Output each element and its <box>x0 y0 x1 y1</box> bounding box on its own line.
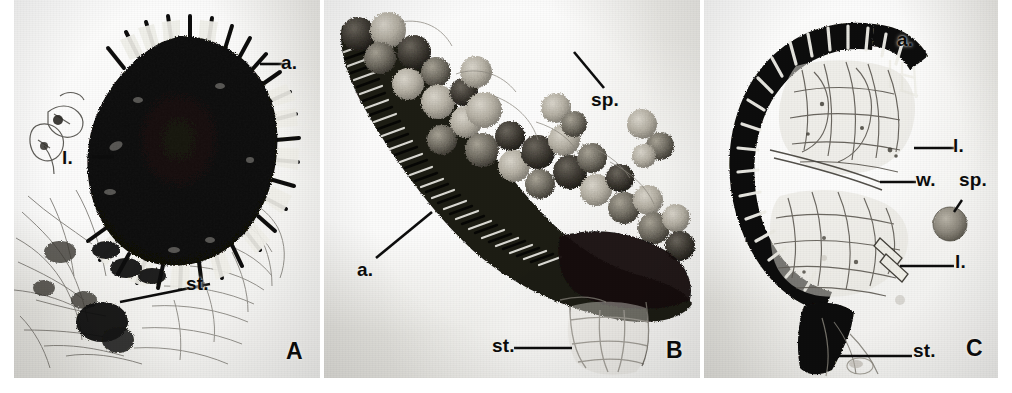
figure-plate: a. l. st. sp. a. st. a. l. w. sp. l. st.… <box>0 0 1012 393</box>
panel-b-micrograph <box>324 0 700 378</box>
label-b-annulus: a. <box>357 260 373 279</box>
label-a-stalk: st. <box>186 274 209 293</box>
panel-b <box>324 0 700 378</box>
panel-a-micrograph <box>14 0 320 378</box>
label-c-lamella-lower: l. <box>955 252 966 271</box>
label-c-stalk: st. <box>913 341 936 360</box>
panel-c-micrograph <box>704 0 998 378</box>
label-a-lamella: l. <box>62 148 73 167</box>
panel-id-a: A <box>286 340 303 363</box>
label-a-annulus: a. <box>281 53 297 72</box>
panel-a <box>14 0 320 378</box>
label-c-lamella-upper: l. <box>953 136 964 155</box>
label-b-spore: sp. <box>591 90 619 109</box>
panel-c <box>704 0 998 378</box>
label-c-wall: w. <box>916 170 936 189</box>
panel-id-c: C <box>966 337 983 360</box>
label-b-stalk: st. <box>492 336 515 355</box>
label-c-spore: sp. <box>959 170 987 189</box>
label-c-annulus: a. <box>897 30 913 49</box>
panel-id-b: B <box>666 339 683 362</box>
